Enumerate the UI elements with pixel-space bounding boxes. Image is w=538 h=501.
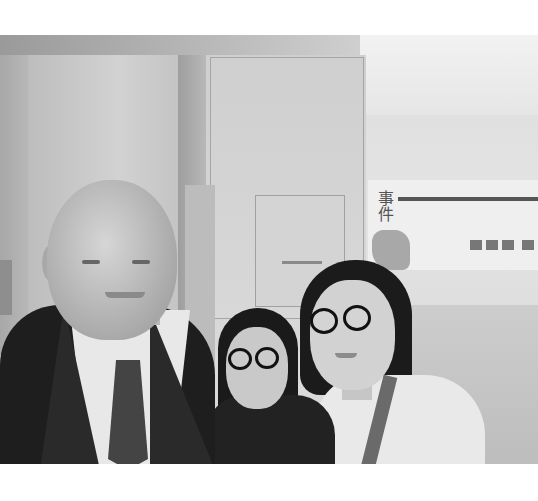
poster-thumbnail	[522, 240, 534, 250]
man-eye	[132, 260, 150, 264]
man-head	[47, 180, 177, 340]
woman-right-smile	[335, 353, 357, 358]
poster-thumbnail	[486, 240, 498, 250]
photo: 事件	[0, 35, 538, 464]
man-smile	[105, 292, 145, 298]
woman-right-face	[310, 280, 395, 390]
wall-frame	[0, 260, 12, 315]
ceiling-light-area	[355, 35, 538, 115]
glasses-lens	[228, 348, 252, 370]
glasses-lens	[343, 305, 371, 331]
ceiling	[0, 35, 360, 55]
glasses-lens	[255, 347, 279, 369]
poster-bar	[398, 197, 538, 201]
poster-thumbnail	[470, 240, 482, 250]
poster-thumbnail	[502, 240, 514, 250]
glasses-lens	[310, 308, 338, 334]
door-handle	[282, 261, 322, 264]
man-eye	[82, 260, 100, 264]
poster-title: 事件	[372, 190, 396, 222]
